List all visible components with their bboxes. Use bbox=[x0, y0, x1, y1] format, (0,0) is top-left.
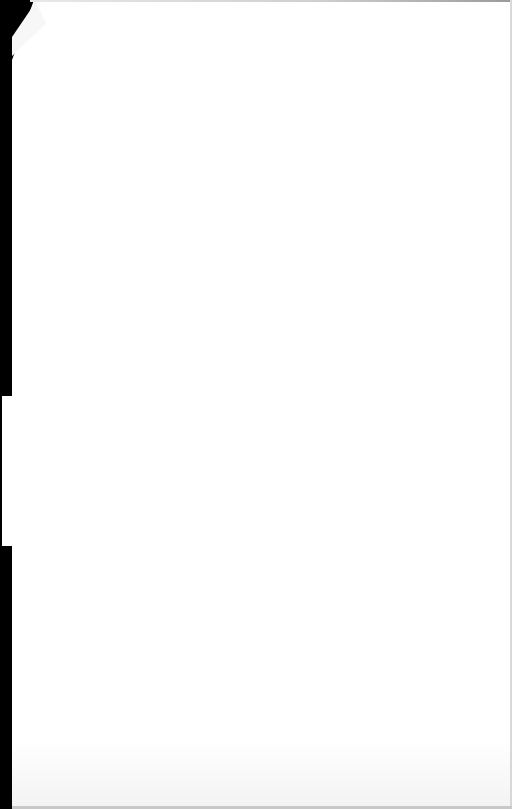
paper-texture bbox=[12, 740, 510, 806]
scanned-page bbox=[0, 0, 512, 809]
page-top-edge bbox=[30, 0, 512, 2]
scan-edge-gap bbox=[2, 396, 12, 546]
